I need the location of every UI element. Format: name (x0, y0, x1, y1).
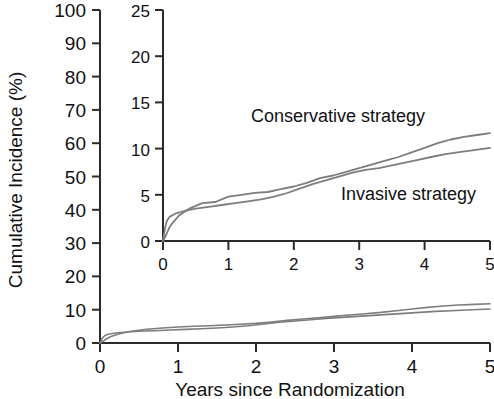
main-axes (92, 10, 490, 352)
figure-container: 0 10 20 30 40 50 60 70 80 90 100 0 1 2 3… (0, 0, 494, 399)
main-ytick-50: 50 (65, 167, 86, 188)
main-xtick-4: 4 (407, 356, 418, 377)
main-x-ticklabels: 0 1 2 3 4 5 (95, 356, 494, 377)
series-label-conservative: Conservative strategy (251, 106, 425, 126)
main-xtick-0: 0 (95, 356, 106, 377)
inset-xtick-2: 2 (289, 255, 298, 274)
main-y-ticklabels: 0 10 20 30 40 50 60 70 80 90 100 (54, 0, 86, 354)
x-axis-title: Years since Randomization (175, 379, 405, 399)
inset-ytick-20: 20 (131, 48, 150, 67)
inset-xtick-5: 5 (485, 255, 494, 274)
inset-ytick-25: 25 (131, 2, 150, 21)
inset-ytick-15: 15 (131, 94, 150, 113)
cumulative-incidence-chart: 0 10 20 30 40 50 60 70 80 90 100 0 1 2 3… (0, 0, 494, 399)
main-y-ticks (92, 10, 100, 343)
main-xtick-2: 2 (251, 356, 262, 377)
main-x-ticks (100, 343, 490, 352)
inset-xtick-4: 4 (420, 255, 429, 274)
inset-x-ticks (163, 241, 490, 250)
inset-y-ticklabels: 0 5 10 15 20 25 (131, 2, 150, 252)
inset-xtick-3: 3 (354, 255, 363, 274)
inset-ytick-10: 10 (131, 141, 150, 160)
main-ytick-80: 80 (65, 67, 86, 88)
inset-xtick-0: 0 (158, 255, 167, 274)
main-ytick-10: 10 (65, 300, 86, 321)
inset-ytick-5: 5 (141, 187, 150, 206)
inset-x-ticklabels: 0 1 2 3 4 5 (158, 255, 494, 274)
main-curves (100, 304, 490, 343)
inset-xtick-1: 1 (224, 255, 233, 274)
main-ytick-60: 60 (65, 133, 86, 154)
main-xtick-5: 5 (485, 356, 494, 377)
series-label-invasive: Invasive strategy (341, 184, 476, 204)
curve-conservative-main (100, 304, 490, 343)
main-xtick-1: 1 (173, 356, 184, 377)
main-xtick-3: 3 (329, 356, 340, 377)
main-ytick-40: 40 (65, 200, 86, 221)
main-ytick-100: 100 (54, 0, 86, 21)
main-ytick-0: 0 (75, 333, 86, 354)
main-ytick-20: 20 (65, 266, 86, 287)
main-ytick-30: 30 (65, 233, 86, 254)
main-ytick-90: 90 (65, 33, 86, 54)
inset-ytick-0: 0 (141, 233, 150, 252)
main-ytick-70: 70 (65, 100, 86, 121)
inset-y-ticks (155, 10, 163, 241)
curve-invasive-main (100, 309, 490, 343)
inset-axes (155, 10, 490, 250)
y-axis-title: Cumulative Incidence (%) (5, 72, 26, 288)
